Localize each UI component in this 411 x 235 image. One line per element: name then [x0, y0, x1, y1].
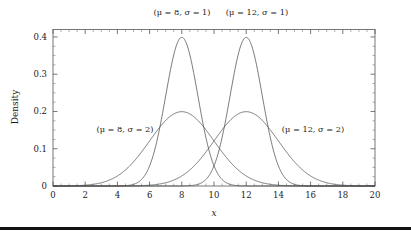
x-tick-label: 10: [209, 190, 220, 200]
density-curve-path: [53, 112, 375, 186]
x-tick-label: 20: [370, 190, 381, 200]
annotation-mu8-sigma1: (μ = 8, σ = 1): [153, 7, 210, 17]
y-tick-label: 0.2: [33, 106, 47, 116]
annotation-mu12-sigma1: (μ = 12, σ = 1): [226, 7, 288, 17]
x-tick-label: 16: [305, 190, 316, 200]
x-tick-label: 6: [147, 190, 152, 200]
annotation-mu12-sigma2: (μ = 12, σ = 2): [282, 124, 344, 134]
x-tick-label: 14: [273, 190, 284, 200]
density-plot: 0246810121416182000.10.20.30.4 x Density…: [0, 0, 411, 235]
plot-frame: [53, 30, 375, 187]
y-tick-label: 0.4: [33, 32, 47, 42]
density-curve-path: [53, 112, 375, 186]
y-tick-label: 0: [42, 181, 47, 191]
x-axis-title: x: [211, 208, 216, 218]
x-tick-label: 12: [241, 190, 252, 200]
axis-tick-labels: 0246810121416182000.10.20.30.4: [33, 32, 380, 200]
y-tick-label: 0.1: [33, 144, 47, 154]
x-tick-label: 0: [50, 190, 55, 200]
x-tick-label: 2: [82, 190, 87, 200]
y-axis-title: Density: [10, 89, 20, 124]
bottom-horizontal-rule: [0, 227, 411, 230]
x-tick-label: 4: [115, 190, 120, 200]
x-tick-label: 18: [337, 190, 348, 200]
density-curve-path: [53, 37, 375, 186]
density-curves: [53, 37, 375, 186]
x-tick-label: 8: [179, 190, 184, 200]
axis-ticks: [53, 30, 375, 187]
figure-container: 0246810121416182000.10.20.30.4 x Density…: [0, 0, 411, 235]
y-tick-label: 0.3: [33, 69, 47, 79]
annotation-mu8-sigma2: (μ = 8, σ = 2): [96, 124, 153, 134]
density-curve-path: [53, 37, 375, 186]
